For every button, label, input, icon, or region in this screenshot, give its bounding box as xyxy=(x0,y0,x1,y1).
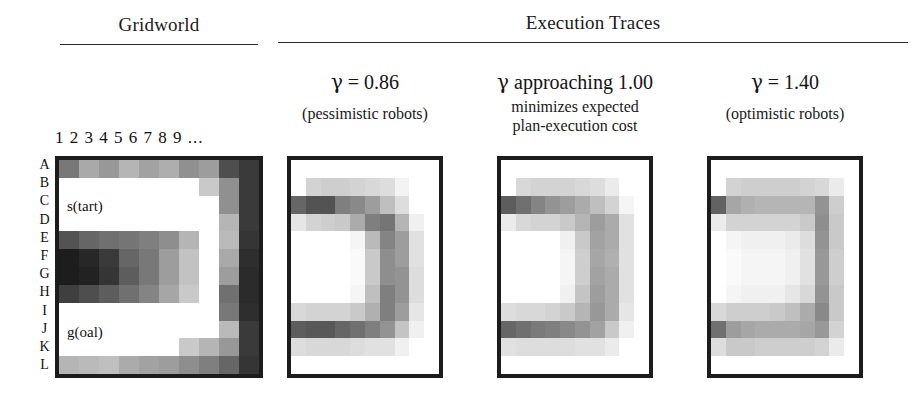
gridworld-cell xyxy=(59,196,79,214)
gridworld-cell xyxy=(219,267,239,285)
gridworld-cell xyxy=(59,321,79,339)
trace-2-cell xyxy=(770,249,785,267)
trace-2-cell xyxy=(800,303,815,321)
trace-0-cell xyxy=(380,267,395,285)
gridworld-cell xyxy=(239,356,259,374)
trace-2-cell xyxy=(844,214,859,232)
trace-2-cell xyxy=(711,303,726,321)
trace-1-cell xyxy=(531,196,546,214)
trace-0-cell xyxy=(350,321,365,339)
trace-0-cell xyxy=(306,285,321,303)
trace-2-cell xyxy=(800,196,815,214)
trace-1-cell xyxy=(545,214,560,232)
trace-2-cell xyxy=(815,303,830,321)
figure-root: Gridworld Execution Traces γ = 0.86 (pes… xyxy=(0,0,922,400)
trace-1-cell xyxy=(516,338,531,356)
trace-0-cell xyxy=(335,249,350,267)
trace-0-cell xyxy=(291,338,306,356)
trace-2-cell xyxy=(770,160,785,178)
trace-1-cell xyxy=(619,321,634,339)
traces-heading-text: Execution Traces xyxy=(278,12,908,34)
trace-0-cell xyxy=(365,249,380,267)
gridworld-cell xyxy=(119,178,139,196)
trace-2-cell xyxy=(741,303,756,321)
gridworld-cell xyxy=(199,196,219,214)
trace-1-cell xyxy=(545,356,560,374)
trace-2-cell xyxy=(741,160,756,178)
gridworld-cell xyxy=(99,321,119,339)
trace-0-cell xyxy=(306,214,321,232)
gridworld-cell xyxy=(179,321,199,339)
trace-0-cell xyxy=(380,178,395,196)
gridworld-section-heading: Gridworld xyxy=(60,14,258,45)
gridworld-cell xyxy=(119,196,139,214)
trace-1-cell xyxy=(590,267,605,285)
gridworld-cell xyxy=(159,303,179,321)
trace-2-cell xyxy=(800,338,815,356)
gridworld-cell xyxy=(199,249,219,267)
trace-subcaption-0: (pessimistic robots) xyxy=(260,103,470,124)
trace-1-cell xyxy=(516,196,531,214)
trace-2-cell xyxy=(770,178,785,196)
trace-0-cell xyxy=(409,356,424,374)
gridworld-cell xyxy=(219,231,239,249)
gridworld-cell xyxy=(179,338,199,356)
trace-0-cell xyxy=(321,321,336,339)
trace-2-cell xyxy=(785,285,800,303)
gridworld-cell xyxy=(59,160,79,178)
trace-2-cell xyxy=(711,178,726,196)
trace-2-cell xyxy=(741,285,756,303)
trace-2-cell xyxy=(785,303,800,321)
trace-panel-0[interactable] xyxy=(287,156,443,378)
gridworld-panel[interactable]: s(tart) g(oal) xyxy=(55,156,263,378)
trace-1-cell xyxy=(560,303,575,321)
gridworld-cell xyxy=(219,214,239,232)
trace-0-cell xyxy=(424,249,439,267)
trace-2-cell xyxy=(755,321,770,339)
trace-1-cell xyxy=(501,160,516,178)
trace-1-cell xyxy=(501,303,516,321)
trace-1-cell xyxy=(634,249,649,267)
trace-1-cell xyxy=(545,303,560,321)
trace-heatmap-2 xyxy=(711,160,859,374)
trace-0-cell xyxy=(424,160,439,178)
trace-2-cell xyxy=(741,196,756,214)
trace-1-cell xyxy=(575,267,590,285)
trace-2-cell xyxy=(770,338,785,356)
trace-0-cell xyxy=(395,249,410,267)
trace-0-cell xyxy=(306,160,321,178)
trace-1-cell xyxy=(531,178,546,196)
gridworld-cell xyxy=(79,214,99,232)
gridworld-heatmap xyxy=(59,160,259,374)
trace-1-cell xyxy=(516,267,531,285)
trace-2-cell xyxy=(726,303,741,321)
gridworld-row-label-e: E xyxy=(40,229,49,247)
gridworld-cell xyxy=(199,338,219,356)
trace-1-cell xyxy=(590,303,605,321)
trace-panel-2[interactable] xyxy=(707,156,863,378)
gridworld-cell xyxy=(239,321,259,339)
gridworld-cell xyxy=(179,285,199,303)
gridworld-row-label-f: F xyxy=(41,247,49,265)
trace-0-cell xyxy=(291,196,306,214)
gridworld-cell xyxy=(79,178,99,196)
trace-0-cell xyxy=(306,321,321,339)
trace-0-cell xyxy=(365,160,380,178)
trace-1-cell xyxy=(575,160,590,178)
trace-panel-1[interactable] xyxy=(497,156,653,378)
trace-0-cell xyxy=(409,267,424,285)
trace-0-cell xyxy=(380,160,395,178)
trace-0-cell xyxy=(395,338,410,356)
trace-0-cell xyxy=(380,321,395,339)
trace-1-cell xyxy=(560,267,575,285)
trace-1-cell xyxy=(619,356,634,374)
gridworld-cell xyxy=(119,303,139,321)
trace-2-cell xyxy=(741,356,756,374)
trace-0-cell xyxy=(395,321,410,339)
trace-0-cell xyxy=(350,178,365,196)
trace-0-cell xyxy=(424,196,439,214)
trace-0-cell xyxy=(350,285,365,303)
trace-1-cell xyxy=(531,303,546,321)
trace-0-cell xyxy=(291,303,306,321)
trace-2-cell xyxy=(829,303,844,321)
